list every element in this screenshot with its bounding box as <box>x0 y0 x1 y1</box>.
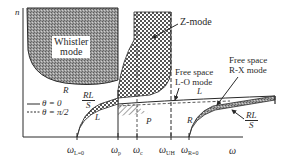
diagram-canvas <box>0 0 287 160</box>
free-space-rx-label: Free space R-X mode <box>229 55 267 75</box>
tick-w-r0: ωR=0 <box>181 145 198 156</box>
tick-w-uh: ωUH <box>159 145 175 156</box>
dispersion-diagram: n ω ωL=0 ωp ωc ωUH ωR=0 Whistler mode R … <box>0 0 287 160</box>
tick-w-c: ωc <box>133 145 143 156</box>
l-upper-dashed <box>118 101 230 106</box>
rx-arrow <box>217 77 238 105</box>
p-region <box>118 104 148 116</box>
r-branch <box>189 96 275 137</box>
tick-w-l0: ωL=0 <box>67 145 84 156</box>
r-low-label: R <box>187 116 193 125</box>
rl-right-arrow <box>232 110 244 119</box>
lo-arrow <box>175 88 179 100</box>
y-axis-label: n <box>15 8 20 17</box>
legend-theta-pi2: θ = π/2 <box>42 108 69 117</box>
l-high-label: L <box>197 87 202 96</box>
l-low-label: L <box>95 113 100 122</box>
x-axis-label: ω <box>229 146 236 156</box>
p-label: P <box>146 117 152 126</box>
rl-over-s-left: RL S <box>82 91 95 110</box>
z-mode-region <box>118 12 171 98</box>
tick-w-p: ωp <box>111 145 121 156</box>
free-space-lo-label: Free space L-O mode <box>175 67 213 87</box>
z-mode-label: Z-mode <box>180 17 212 27</box>
whistler-r-label: R <box>63 86 69 95</box>
whistler-mode-label: Whistler mode <box>52 36 90 58</box>
rl-over-s-right: RL S <box>245 111 258 130</box>
